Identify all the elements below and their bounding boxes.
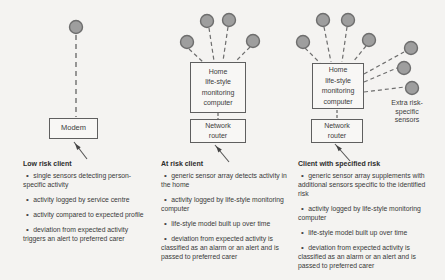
sensor-link-line xyxy=(189,49,203,62)
sensor-icon xyxy=(201,15,214,28)
extra-sensor-icon xyxy=(405,42,418,55)
sensor-link-line xyxy=(324,27,331,62)
at-risk-text-column: At risk client generic sensor array dete… xyxy=(161,160,289,267)
bullet-item: single sensors detecting person-specific… xyxy=(23,171,144,189)
column-heading: At risk client xyxy=(161,160,289,167)
sensor-link-line xyxy=(305,48,320,63)
extra-sensor-link-line xyxy=(364,87,405,92)
bullet-item: deviation from expected activity trigger… xyxy=(23,225,144,243)
telecare-diagram: Modem Home life-style monitoring compute… xyxy=(0,0,445,280)
network-router-box: Network router xyxy=(311,119,363,143)
specified-risk-text-column: Client with specified risk generic senso… xyxy=(298,160,434,276)
bullet-item: activity logged by service centre xyxy=(23,195,144,204)
extra-sensors-label: Extra risk- specific sensors xyxy=(378,99,436,125)
column-heading: Client with specified risk xyxy=(298,160,434,167)
sensor-icon xyxy=(317,14,330,27)
bullet-item: activity logged by life-style monitoring… xyxy=(161,195,289,213)
bullet-item: generic sensor array supplements with ad… xyxy=(298,171,434,198)
sensor-icon xyxy=(342,14,355,27)
bullet-item: generic sensor array detects activity in… xyxy=(161,171,289,189)
bullet-item: activity compared to expected profile xyxy=(23,210,144,219)
sensor-icon xyxy=(363,34,376,47)
sensor-icon xyxy=(223,14,236,27)
sensor-icon xyxy=(247,35,260,48)
network-router-box: Network router xyxy=(190,119,246,143)
sensor-link-line xyxy=(342,27,347,62)
extra-sensor-icon xyxy=(398,62,411,75)
sensor-link-line xyxy=(223,27,228,61)
bullet-item: life-style model built up over time xyxy=(161,219,289,228)
sensor-link-line xyxy=(236,47,250,61)
sensor-link-line xyxy=(353,46,366,62)
bullet-item: deviation from expected activity is clas… xyxy=(298,243,434,270)
sensor-icon xyxy=(70,21,83,34)
column-heading: Low risk client xyxy=(23,160,144,167)
sensor-link-line xyxy=(209,28,214,61)
monitoring-computer-box: Home life-style monitoring computer xyxy=(312,63,364,109)
extra-sensor-icon xyxy=(406,82,419,95)
extra-sensor-link-line xyxy=(364,68,397,82)
bullet-item: deviation from expected activity is clas… xyxy=(161,234,289,261)
sensor-icon xyxy=(297,36,310,49)
modem-box: Modem xyxy=(49,118,98,139)
bullet-item: activity logged by life-style monitoring… xyxy=(298,204,434,222)
bullet-item: life-style model built up over time xyxy=(298,228,434,237)
sensor-icon xyxy=(181,36,194,49)
low-risk-text-column: Low risk client single sensors detecting… xyxy=(23,160,144,249)
monitoring-computer-box: Home life-style monitoring computer xyxy=(190,62,246,113)
